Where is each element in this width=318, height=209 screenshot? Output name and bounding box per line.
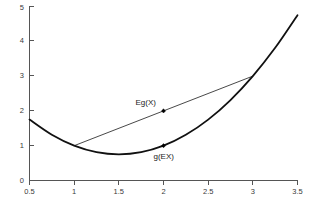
data-point-markers [161, 109, 165, 148]
x-axis-ticks: 0.5 1 1.5 2 2.5 3 3.5 [24, 181, 302, 197]
x-tick-label-3: 2 [161, 187, 165, 196]
y-tick-label-4: 4 [20, 36, 24, 45]
x-tick-label-5: 3 [251, 187, 255, 196]
y-tick-label-2: 2 [20, 106, 24, 115]
y-tick-label-1: 1 [20, 141, 24, 150]
x-tick-label-1: 1 [72, 187, 76, 196]
y-tick-label-5: 5 [20, 3, 24, 12]
x-tick-label-0: 0.5 [24, 187, 34, 196]
y-tick-label-0: 0 [20, 176, 24, 185]
chart-container: 0 1 2 3 4 5 0.5 1 1.5 2 2.5 3 3.5 [0, 0, 318, 209]
annotation-gex: g(EX) [154, 152, 175, 161]
jensen-inequality-chart: 0 1 2 3 4 5 0.5 1 1.5 2 2.5 3 3.5 [0, 0, 318, 209]
y-tick-label-3: 3 [20, 71, 24, 80]
annotation-egx: Eg(X) [136, 98, 157, 107]
convex-function-curve [30, 15, 298, 154]
x-tick-label-4: 2.5 [203, 187, 213, 196]
x-tick-label-2: 1.5 [114, 187, 124, 196]
marker-point-0 [161, 109, 165, 113]
y-axis-ticks: 0 1 2 3 4 5 [20, 3, 34, 185]
x-tick-label-6: 3.5 [292, 187, 302, 196]
